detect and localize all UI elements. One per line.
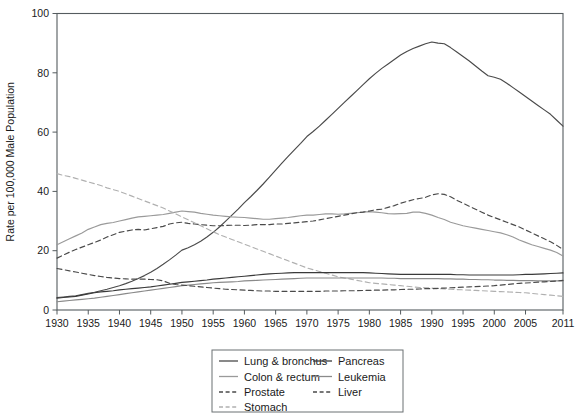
legend-label-stomach: Stomach (244, 401, 287, 413)
y-tick-label: 60 (37, 126, 49, 138)
legend-label-colon-rectum: Colon & rectum (244, 371, 320, 383)
x-tick-label: 1950 (170, 317, 194, 329)
y-axis-title-layer: Rate per 100,000 Male Population (4, 82, 16, 242)
series-layer (57, 42, 563, 302)
legend-label-liver: Liver (338, 386, 362, 398)
x-tick-label: 1945 (139, 317, 163, 329)
y-tick-label: 80 (37, 67, 49, 79)
series-line-leukemia (57, 278, 563, 302)
y-tick-label: 100 (31, 7, 49, 19)
series-line-colon-rectum (57, 211, 563, 256)
x-tick-label: 1930 (45, 317, 69, 329)
y-tick-label: 0 (43, 304, 49, 316)
y-tick-label: 40 (37, 185, 49, 197)
y-tick-label: 20 (37, 244, 49, 256)
legend: Lung & bronchusPancreasColon & rectumLeu… (212, 350, 403, 413)
x-tick-label: 1980 (358, 317, 382, 329)
x-tick-label: 2000 (483, 317, 507, 329)
x-tick-label: 1965 (264, 317, 288, 329)
legend-label-pancreas: Pancreas (338, 355, 385, 367)
y-axis-title: Rate per 100,000 Male Population (4, 82, 16, 242)
x-tick-label: 1935 (77, 317, 101, 329)
x-tick-label: 1990 (420, 317, 444, 329)
x-tick-label: 1995 (451, 317, 475, 329)
chart-figure: 0204060801001930193519401945195019551960… (0, 0, 578, 420)
legend-label-leukemia: Leukemia (338, 371, 387, 383)
series-line-pancreas (57, 273, 563, 299)
x-tick-label: 1960 (233, 317, 257, 329)
x-tick-label: 1985 (389, 317, 413, 329)
x-tick-label: 2011 (552, 317, 575, 329)
x-tick-label: 1970 (295, 317, 319, 329)
line-chart-svg: 0204060801001930193519401945195019551960… (0, 0, 578, 420)
x-tick-label: 1975 (326, 317, 350, 329)
x-tick-label: 1955 (201, 317, 225, 329)
x-tick-label: 1940 (108, 317, 132, 329)
x-tick-label: 2005 (514, 317, 538, 329)
legend-label-prostate: Prostate (244, 386, 285, 398)
series-line-prostate (57, 194, 563, 258)
series-line-lung-bronchus (57, 42, 563, 298)
plot-frame (57, 14, 563, 311)
